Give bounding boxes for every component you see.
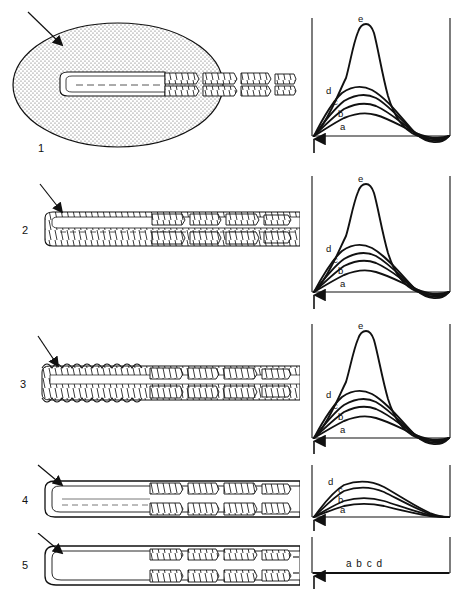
- curve-label-c-2: c: [333, 254, 338, 265]
- panel-number-4: 4: [22, 494, 28, 506]
- curve-label-d-2: d: [326, 243, 331, 254]
- figure-row-1: 1 e d c b a: [0, 0, 464, 170]
- curve-label-e-2: e: [358, 173, 363, 184]
- pointer-arrow-2: [40, 184, 62, 212]
- panel-4-diagram: 4: [0, 463, 300, 533]
- curve-label-e-1: e: [358, 13, 363, 24]
- curve-label-a-1: a: [340, 121, 346, 132]
- curve-label-c-3: c: [333, 400, 338, 411]
- figure-row-5: 5 a b c d: [0, 533, 464, 597]
- panel-1-diagram: 1: [0, 0, 300, 170]
- curve-label-c-1: c: [333, 96, 338, 107]
- figure-root: 1 e d c b a: [0, 0, 464, 597]
- curve-label-a-3: a: [340, 424, 346, 435]
- pointer-arrow-3: [38, 336, 58, 366]
- curve-label-d-3: d: [326, 389, 331, 400]
- panel-2-chart: e d c b a: [300, 170, 464, 318]
- panel-3-diagram: 3: [0, 318, 300, 463]
- curve-label-d-1: d: [326, 85, 331, 96]
- curve-label-b-3: b: [338, 411, 343, 422]
- panel-3-chart: e d c b a: [300, 318, 464, 463]
- panel-2-diagram: 2: [0, 170, 300, 318]
- panel-4-chart: d c b a: [300, 461, 464, 533]
- curve-label-b-1: b: [338, 108, 343, 119]
- figure-row-4: 4 d c b a: [0, 463, 464, 533]
- panel-number-3: 3: [20, 378, 26, 390]
- panel-number-2: 2: [22, 224, 28, 236]
- curve-label-b-2: b: [338, 265, 343, 276]
- curve-label-e-3: e: [358, 320, 363, 331]
- curve-label-a-4: a: [340, 504, 346, 515]
- panel-5-chart: a b c d: [300, 529, 464, 597]
- curve-label-d-4: d: [328, 476, 333, 487]
- panel-5-diagram: 5: [0, 533, 300, 597]
- panel-number-5: 5: [22, 559, 28, 571]
- panel-number-1: 1: [38, 142, 44, 154]
- curve-label-abcd-5: a b c d: [346, 558, 383, 569]
- figure-row-2: 2 e d c b a: [0, 170, 464, 318]
- figure-row-3: 3 e d c b a: [0, 318, 464, 463]
- panel-1-chart: e d c b a: [300, 8, 464, 166]
- curve-label-a-2: a: [340, 278, 346, 289]
